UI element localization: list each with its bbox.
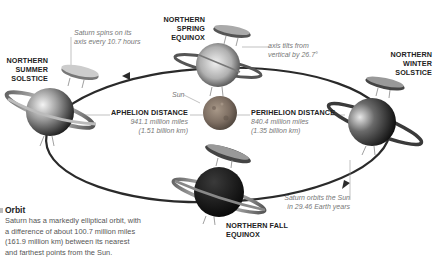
- label-line: SOLSTICE: [380, 68, 432, 77]
- orbit-arrow-icon: [122, 72, 130, 80]
- orbit-note-line: and farthest points from the Sun.: [0, 248, 200, 258]
- label-northern-winter-solstice: NORTHERN WINTER SOLSTICE: [380, 50, 432, 77]
- annotation-line: axis tilts from: [268, 41, 348, 50]
- perihelion-km: (1.35 billion km): [251, 126, 346, 135]
- label-northern-fall-equinox: NORTHERN FALL EQUINOX: [226, 221, 316, 239]
- label-line: SUMMER: [2, 65, 48, 74]
- aphelion-title: APHELION DISTANCE: [100, 108, 188, 117]
- annotation-axis-tilt: axis tilts from vertical by 26.7°: [268, 41, 348, 59]
- orbit-note: Orbit Saturn has a markedly elliptical o…: [0, 205, 200, 258]
- label-northern-spring-equinox: NORTHERN SPRING EQUINOX: [160, 15, 205, 42]
- aphelion-km: (1.51 billion km): [100, 126, 188, 135]
- aphelion-callout: APHELION DISTANCE 941.1 million miles (1…: [100, 108, 188, 135]
- annotation-line: in 29.46 Earth years: [270, 202, 350, 211]
- label-line: NORTHERN FALL: [226, 221, 316, 230]
- label-line: EQUINOX: [226, 230, 316, 239]
- label-northern-summer-solstice: NORTHERN SUMMER SOLSTICE: [2, 56, 48, 83]
- perihelion-miles: 840.4 million miles: [251, 117, 346, 126]
- label-line: EQUINOX: [160, 33, 205, 42]
- perihelion-callout: PERIHELION DISTANCE 840.4 million miles …: [251, 108, 346, 135]
- annotation-line: axis every 10.7 hours: [74, 37, 164, 46]
- orbit-note-line: (161.9 million km) between its nearest: [0, 237, 200, 248]
- orbit-arrow-icon: [342, 180, 350, 189]
- saturn-orbit-diagram: NORTHERN SUMMER SOLSTICE NORTHERN SPRING…: [0, 0, 434, 258]
- orbit-note-title: Orbit: [0, 205, 200, 216]
- label-line: NORTHERN: [160, 15, 205, 24]
- label-line: WINTER: [380, 59, 432, 68]
- label-line: SPRING: [160, 24, 205, 33]
- annotation-line: Saturn spins on its: [74, 28, 164, 37]
- annotation-orbital-period: Saturn orbits the Sun in 29.46 Earth yea…: [270, 193, 350, 211]
- orbit-note-line: Saturn has a markedly elliptical orbit, …: [0, 216, 200, 227]
- annotation-line: Saturn orbits the Sun: [270, 193, 350, 202]
- label-sun: Sun: [172, 90, 192, 99]
- annotation-spin: Saturn spins on its axis every 10.7 hour…: [74, 28, 164, 46]
- label-line: NORTHERN: [380, 50, 432, 59]
- orbit-note-line: a difference of about 100.7 million mile…: [0, 227, 200, 238]
- perihelion-title: PERIHELION DISTANCE: [251, 108, 346, 117]
- aphelion-miles: 941.1 million miles: [100, 117, 188, 126]
- sun-icon: [203, 96, 237, 130]
- annotation-line: vertical by 26.7°: [268, 50, 348, 59]
- label-line: SOLSTICE: [2, 74, 48, 83]
- label-line: NORTHERN: [2, 56, 48, 65]
